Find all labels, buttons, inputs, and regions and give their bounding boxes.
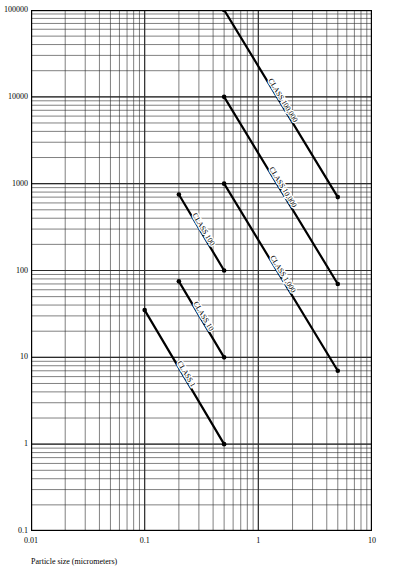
series-endpoint-marker — [335, 282, 340, 287]
y-tick-label: 0.1 — [0, 526, 28, 535]
series-endpoint-marker — [177, 192, 182, 197]
x-tick-label: 0.1 — [133, 536, 157, 545]
x-tick-label: 0.01 — [19, 536, 43, 545]
series-endpoint-marker — [222, 442, 227, 447]
series-endpoint-marker — [222, 268, 227, 273]
y-tick-label: 10 — [0, 352, 28, 361]
y-tick-label: 1000 — [0, 179, 28, 188]
chart-svg: CLASS 100,000CLASS 10,000CLASS 1,000CLAS… — [31, 10, 372, 531]
series-endpoint-marker — [222, 181, 227, 186]
series-endpoint-marker — [222, 355, 227, 360]
series-endpoint-marker — [222, 95, 227, 100]
y-tick-label: 1 — [0, 439, 28, 448]
x-axis-title: Particle size (micrometers) — [31, 557, 117, 566]
y-tick-label: 10000 — [0, 92, 28, 101]
chart-figure: CLASS 100,000CLASS 10,000CLASS 1,000CLAS… — [0, 0, 393, 578]
series-endpoint-marker — [142, 308, 147, 313]
plot-area: CLASS 100,000CLASS 10,000CLASS 1,000CLAS… — [31, 10, 372, 531]
x-tick-label: 10 — [360, 536, 384, 545]
y-tick-label: 100000 — [0, 5, 28, 14]
series-endpoint-marker — [177, 279, 182, 284]
x-tick-label: 1 — [246, 536, 270, 545]
series-endpoint-marker — [335, 195, 340, 200]
y-tick-label: 100 — [0, 266, 28, 275]
series-endpoint-marker — [335, 368, 340, 373]
